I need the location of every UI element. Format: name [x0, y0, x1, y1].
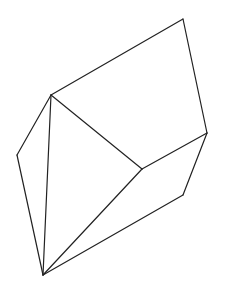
edge-BC — [183, 19, 207, 133]
edge-DA — [51, 95, 142, 169]
edge-FA — [43, 95, 51, 275]
edge-CD — [142, 133, 207, 169]
edge-FG — [17, 155, 43, 275]
edge-GA — [17, 95, 51, 155]
edge-EF — [43, 195, 183, 275]
edge-AB — [51, 19, 183, 95]
polyhedron-diagram — [0, 0, 230, 289]
polyhedron-edges — [17, 19, 207, 275]
edge-FD — [43, 169, 142, 275]
edge-CE — [183, 133, 207, 195]
